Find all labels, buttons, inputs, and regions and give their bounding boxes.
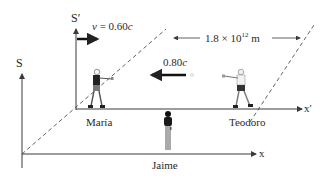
s-prime-frame-axes xyxy=(76,29,302,110)
jaime-label: Jaime xyxy=(152,160,178,171)
jaime-figure-icon xyxy=(164,111,172,150)
velocity-unit: c xyxy=(128,20,133,32)
teodoro-figure-icon xyxy=(222,69,253,108)
s-frame-axes xyxy=(22,74,256,168)
maria-label: María xyxy=(86,117,112,128)
s-prime-frame-label: S′ xyxy=(71,12,80,24)
relativity-diagram xyxy=(0,0,328,180)
signal-source-icon xyxy=(191,74,194,77)
velocity-label: v = 0.60c xyxy=(92,21,133,32)
s-frame-label: S xyxy=(16,57,23,69)
velocity-eq: = 0.60 xyxy=(97,20,128,32)
x-prime-axis-label: x′ xyxy=(304,103,312,114)
distance-base: 1.8 × 10 xyxy=(205,32,241,44)
x-axis-label: x xyxy=(259,148,265,159)
signal-speed-unit: c xyxy=(182,56,187,68)
signal-speed-label: 0.80c xyxy=(163,57,187,68)
distance-label: 1.8 × 1012 m xyxy=(205,33,260,44)
maria-figure-icon xyxy=(88,69,114,108)
teodoro-label: Teodoro xyxy=(229,117,266,128)
signal-speed-value: 0.80 xyxy=(163,56,182,68)
distance-unit: m xyxy=(248,32,259,44)
